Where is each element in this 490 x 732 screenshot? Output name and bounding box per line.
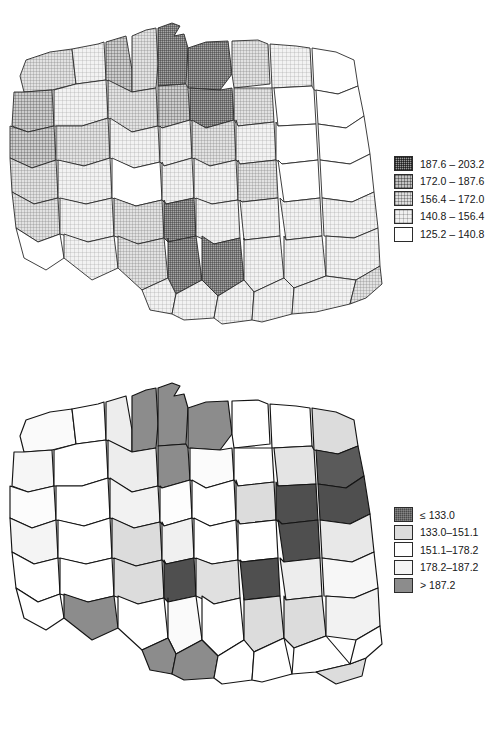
legend-item: 125.2 – 140.8 [394,225,484,243]
legend-label: 178.2–187.2 [420,562,478,573]
upper-map-svg [6,8,388,366]
legend-item: 151.1–178.2 [394,541,478,559]
legend-label: 187.6 – 203.2 [420,159,484,170]
legend-label: 156.4 – 172.0 [420,194,484,205]
legend-swatch-icon [394,174,413,189]
legend-label: 140.8 – 156.4 [420,211,484,222]
upper-choropleth-map [6,8,388,366]
lower-map-svg [6,368,388,726]
legend-swatch-icon [394,542,413,557]
legend-item: 178.2–187.2 [394,559,478,577]
lower-map-legend: ≤ 133.0 133.0–151.1 151.1–178.2 178.2–18… [394,506,478,594]
legend-item: > 187.2 [394,576,478,594]
legend-label: 133.0–151.1 [420,527,478,538]
legend-label: 151.1–178.2 [420,545,478,556]
legend-item: 156.4 – 172.0 [394,190,484,208]
legend-swatch-icon [394,507,413,522]
cropped-title-text [0,0,490,3]
figure-root: 187.6 – 203.2 172.0 – 187.6 156.4 – 172.… [0,0,490,732]
legend-swatch-icon [394,525,413,540]
legend-item: 172.0 – 187.6 [394,173,484,191]
legend-item: 140.8 – 156.4 [394,208,484,226]
legend-label: 172.0 – 187.6 [420,176,484,187]
legend-swatch-icon [394,191,413,206]
legend-swatch-icon [394,209,413,224]
legend-label: 125.2 – 140.8 [420,229,484,240]
legend-item: 187.6 – 203.2 [394,155,484,173]
legend-label: > 187.2 [420,580,455,591]
lower-choropleth-map [6,368,388,726]
legend-swatch-icon [394,156,413,171]
legend-item: 133.0–151.1 [394,524,478,542]
upper-map-legend: 187.6 – 203.2 172.0 – 187.6 156.4 – 172.… [394,155,484,243]
legend-item: ≤ 133.0 [394,506,478,524]
legend-swatch-icon [394,560,413,575]
legend-swatch-icon [394,578,413,593]
legend-swatch-icon [394,227,413,242]
legend-label: ≤ 133.0 [420,510,455,521]
